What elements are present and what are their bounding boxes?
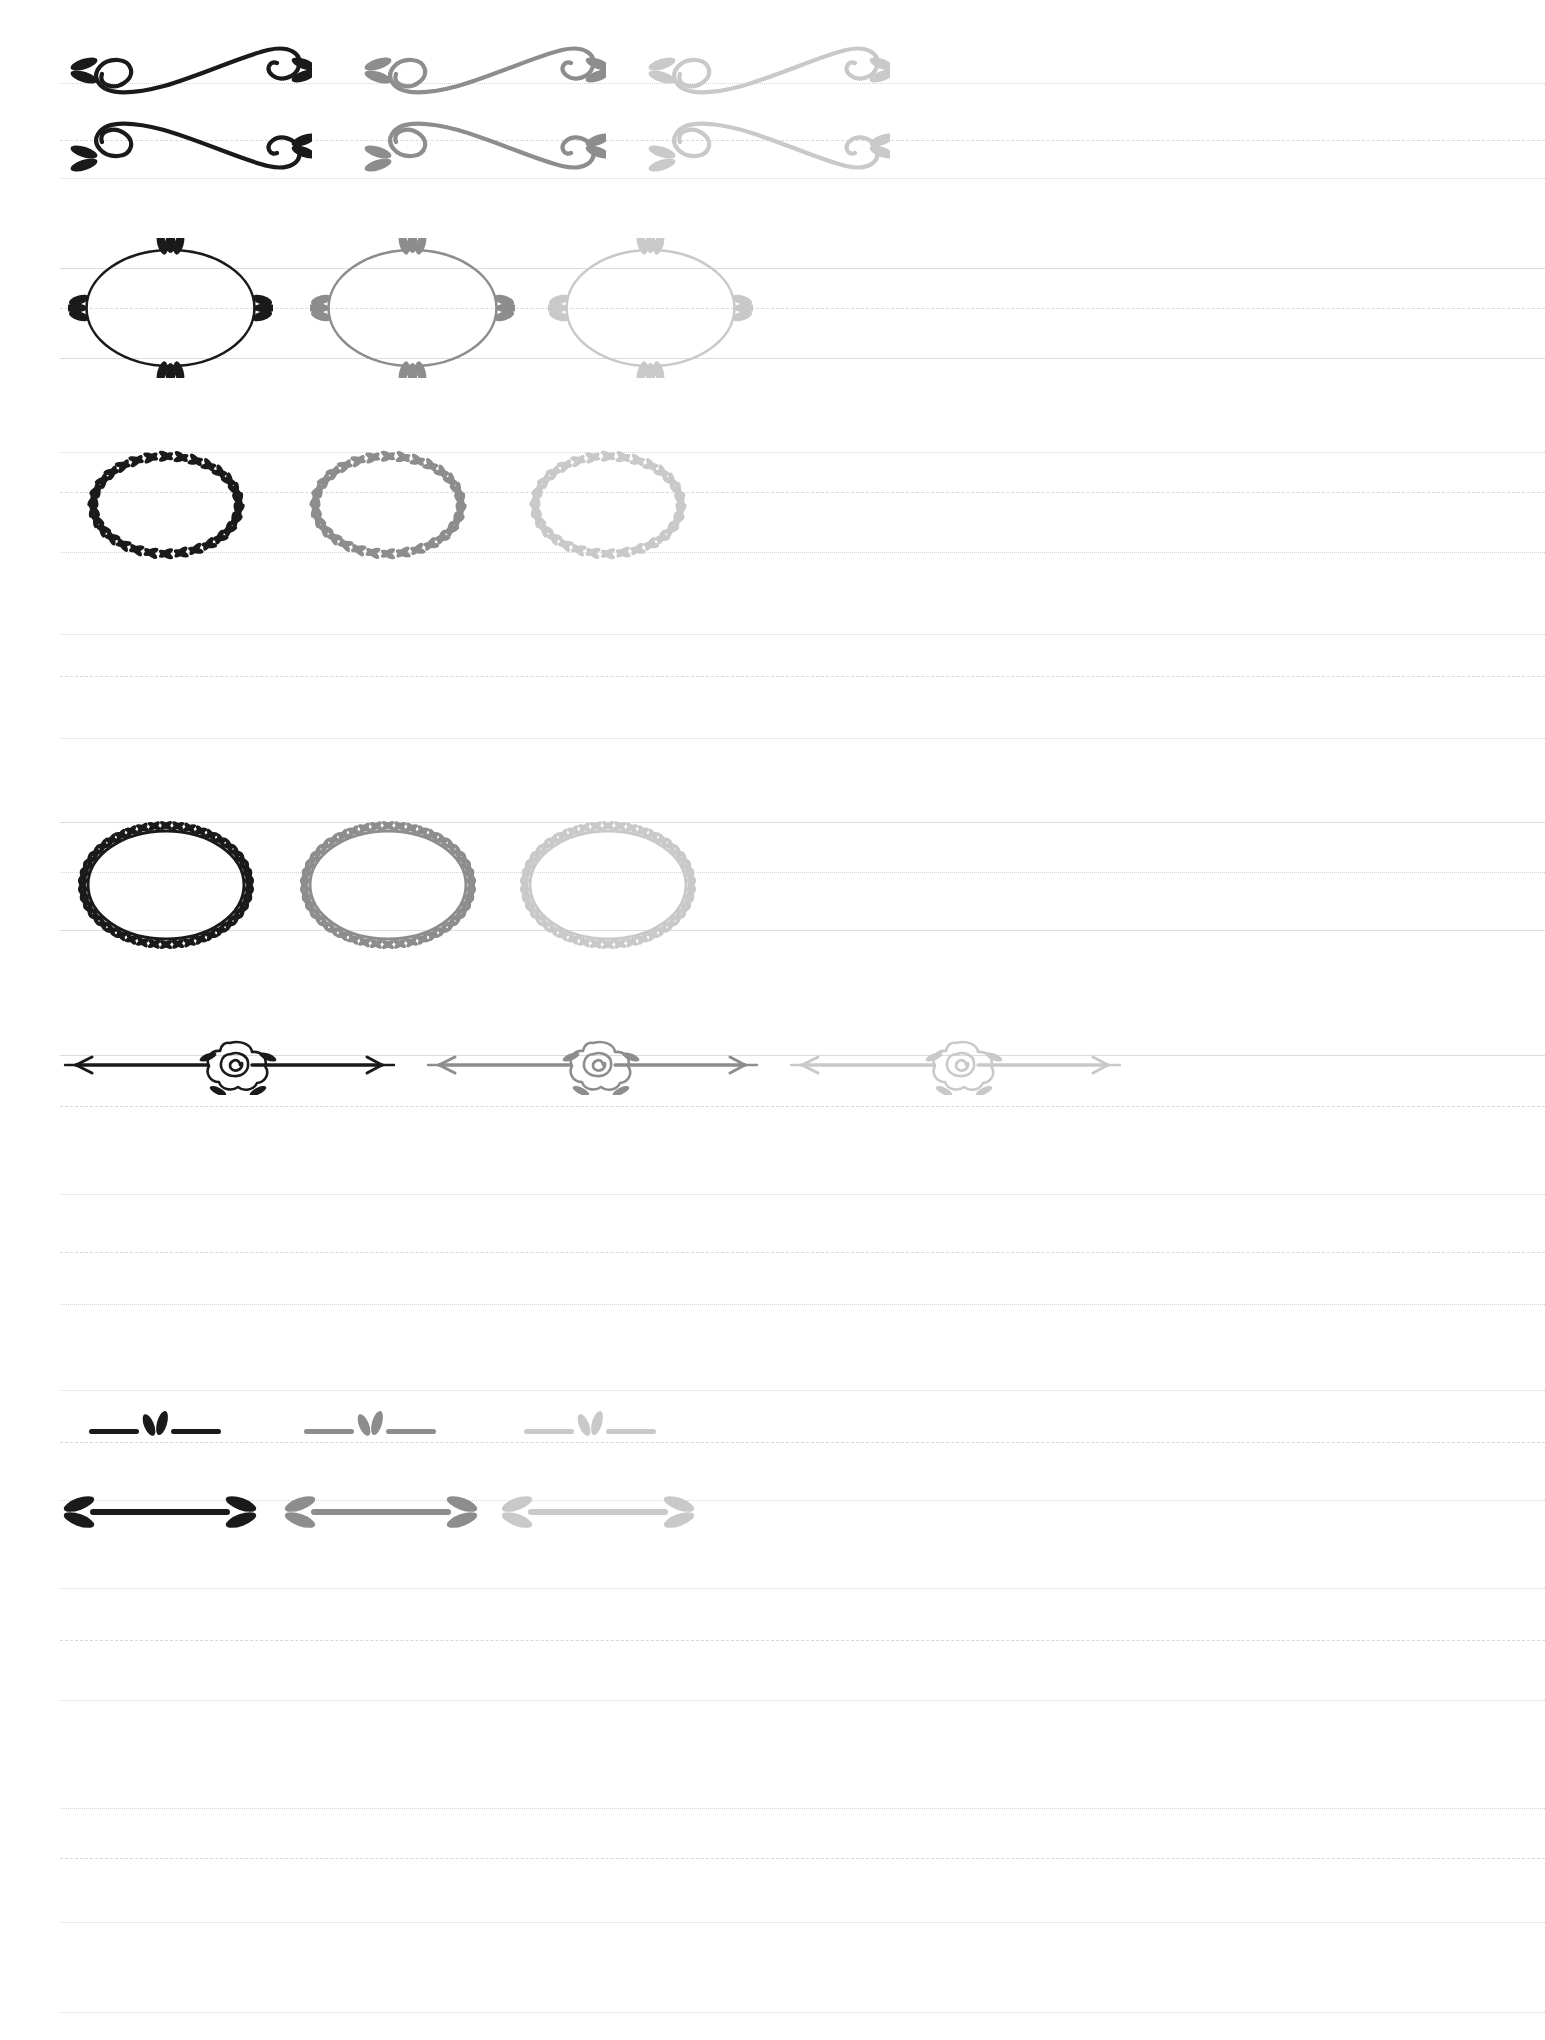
oval-frame-with-leaf-tips-dark-icon [68,238,273,378]
leafed-swash-flourish-mirrored-mid-icon [356,118,606,188]
leaf-tipped-bar-divider-dark-icon [62,1490,257,1534]
oval-frame-with-leaf-tips-mid-icon [310,238,515,378]
rose-arrow-divider-mid-icon [425,1035,760,1095]
laurel-wreath-oval-dense-light-icon [508,820,708,950]
ruled-line [60,452,1545,454]
leafed-swash-flourish-mirrored-light-icon [640,118,890,188]
laurel-wreath-oval-dense-dark-icon [66,820,266,950]
ruled-line [60,1390,1545,1392]
leafed-swash-flourish-mirrored-dark-icon [62,118,312,188]
ruled-line [60,1808,1545,1810]
laurel-wreath-oval-sparse-mid-icon [288,440,488,570]
rose-arrow-divider-light-icon [788,1035,1123,1095]
leafed-swash-flourish-dark-icon [62,28,312,98]
ruled-line [60,872,1545,874]
leaf-tipped-bar-divider-light-icon [500,1490,695,1534]
leaf-pair-short-divider-mid-icon [300,1408,440,1448]
laurel-wreath-oval-sparse-light-icon [508,440,708,570]
ruled-line [60,676,1545,678]
ruled-line [60,1700,1545,1702]
leaf-tipped-bar-divider-mid-icon [283,1490,478,1534]
ornament-specimen-page [0,0,1545,2040]
ruled-line [60,822,1545,824]
ruled-line [60,1858,1545,1860]
ruled-line [60,308,1545,310]
ruled-line [60,1194,1545,1196]
ruled-line [60,634,1545,636]
ruled-line [60,1588,1545,1590]
ruled-line [60,1106,1545,1108]
ruled-line [60,1252,1545,1254]
ruled-line [60,552,1545,554]
leaf-pair-short-divider-light-icon [520,1408,660,1448]
ruled-line [60,1304,1545,1306]
ruled-line [60,2012,1545,2014]
ruled-line [60,738,1545,740]
ruled-line [60,492,1545,494]
oval-frame-with-leaf-tips-light-icon [548,238,753,378]
leaf-pair-short-divider-dark-icon [85,1408,225,1448]
rose-arrow-divider-dark-icon [62,1035,397,1095]
ruled-line [60,1442,1545,1444]
ruled-line [60,930,1545,932]
laurel-wreath-oval-dense-mid-icon [288,820,488,950]
leafed-swash-flourish-mid-icon [356,28,606,98]
ruled-line [60,1640,1545,1642]
ruled-line [60,1922,1545,1924]
leafed-swash-flourish-light-icon [640,28,890,98]
ruled-line [60,358,1545,360]
laurel-wreath-oval-sparse-dark-icon [66,440,266,570]
ruled-line [60,268,1545,270]
